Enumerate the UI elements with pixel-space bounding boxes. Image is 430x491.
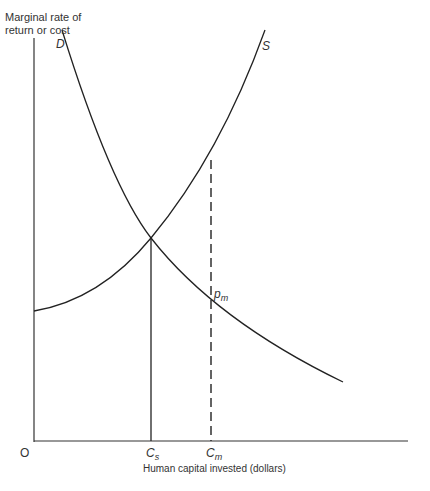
origin-label: O	[20, 447, 29, 460]
demand-label: D	[56, 38, 65, 51]
pm-label: pm	[214, 288, 228, 305]
supply-curve	[34, 30, 265, 311]
demand-curve	[62, 30, 343, 382]
chart-canvas	[0, 0, 430, 491]
y-axis-label-line1: Marginal rate of	[5, 11, 81, 24]
supply-label: S	[262, 40, 270, 53]
y-axis-label-line2: return or cost	[5, 24, 70, 37]
x-axis-label: Human capital invested (dollars)	[143, 462, 286, 475]
